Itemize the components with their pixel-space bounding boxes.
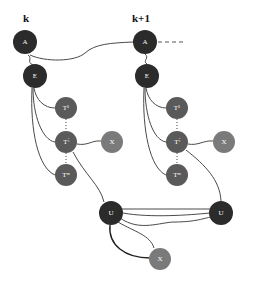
node-k1-X: X bbox=[213, 131, 235, 153]
svg-text:Tᵐ: Tᵐ bbox=[173, 171, 181, 179]
edge-U-left-to-U-right-curve bbox=[120, 217, 211, 225]
node-k1-E: E bbox=[135, 64, 159, 88]
edge-k1-E-to-k1-T1 bbox=[146, 88, 166, 108]
svg-text:T¹: T¹ bbox=[63, 104, 69, 112]
node-k-T1: T¹ bbox=[55, 97, 77, 119]
svg-text:X: X bbox=[157, 255, 162, 263]
state-graph-diagram: k k+1 A E T¹ Tⁱ Tᵐ X bbox=[0, 0, 253, 289]
svg-text:Tⁱ: Tⁱ bbox=[63, 138, 68, 146]
node-k1-Ti: Tⁱ bbox=[166, 131, 188, 153]
node-k1-A: A bbox=[133, 30, 157, 54]
svg-text:Tⁱ: Tⁱ bbox=[174, 138, 179, 146]
edge-U-left-to-X-bottom-b bbox=[118, 222, 154, 248]
node-U-right: U bbox=[209, 201, 233, 225]
svg-text:E: E bbox=[33, 72, 37, 80]
node-X-bottom: X bbox=[149, 248, 171, 270]
node-k-X: X bbox=[101, 131, 123, 153]
node-k-A: A bbox=[13, 30, 37, 54]
svg-text:X: X bbox=[109, 138, 114, 146]
edge-U-left-to-U-right-low bbox=[123, 213, 210, 216]
svg-text:Tᵐ: Tᵐ bbox=[62, 171, 70, 179]
edge-k-A-to-k1-A bbox=[30, 42, 133, 60]
svg-text:U: U bbox=[218, 209, 223, 217]
edge-U-left-to-X-bottom-a bbox=[110, 225, 150, 258]
node-k-E: E bbox=[23, 64, 47, 88]
edge-k-Ti-to-U-left bbox=[73, 152, 104, 202]
svg-text:T¹: T¹ bbox=[174, 104, 180, 112]
svg-text:X: X bbox=[221, 138, 226, 146]
node-k-Ti: Tⁱ bbox=[55, 131, 77, 153]
edge-k-E-to-k-Tm bbox=[32, 88, 55, 175]
step-label-k-plus-1: k+1 bbox=[132, 12, 150, 24]
edge-k1-Ti-to-U-right bbox=[186, 150, 221, 201]
edge-k1-A-to-k1-E bbox=[145, 54, 147, 64]
svg-text:A: A bbox=[22, 38, 27, 46]
edge-k1-Ti-to-k1-X bbox=[188, 141, 213, 145]
edge-k-E-to-k-T1 bbox=[34, 88, 55, 108]
svg-text:A: A bbox=[142, 38, 147, 46]
node-k1-Tm: Tᵐ bbox=[166, 164, 188, 186]
svg-text:U: U bbox=[108, 209, 113, 217]
step-label-k: k bbox=[23, 12, 30, 24]
node-U-left: U bbox=[99, 201, 123, 225]
edge-k1-E-to-k1-Tm bbox=[144, 88, 166, 175]
edge-k-Ti-to-k-X bbox=[77, 141, 101, 145]
node-k1-T1: T¹ bbox=[166, 97, 188, 119]
node-k-Tm: Tᵐ bbox=[55, 164, 77, 186]
svg-text:E: E bbox=[145, 72, 149, 80]
